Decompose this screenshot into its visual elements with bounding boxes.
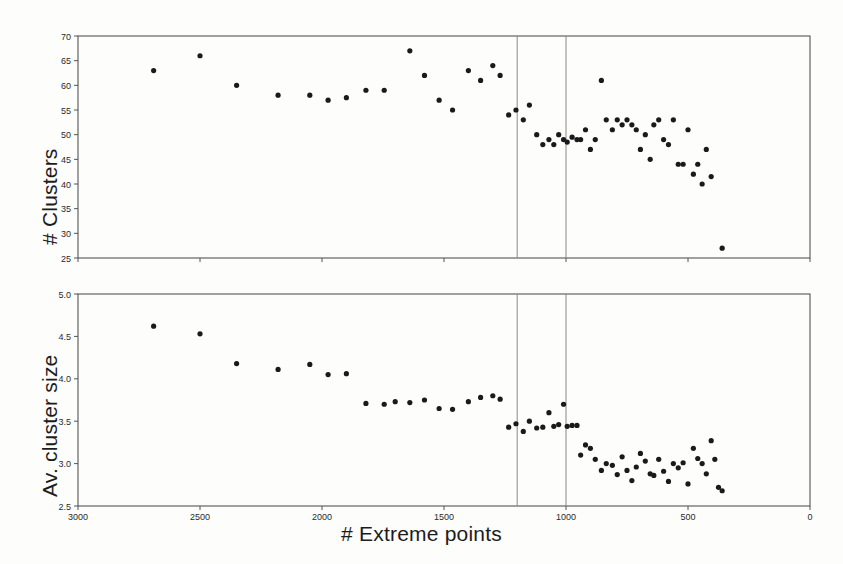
data-point <box>593 137 598 142</box>
data-point <box>574 423 579 428</box>
data-point <box>704 471 709 476</box>
data-point <box>661 469 666 474</box>
data-point <box>490 393 495 398</box>
data-point <box>615 472 620 477</box>
data-point <box>695 456 700 461</box>
data-point <box>534 132 539 137</box>
data-point <box>561 402 566 407</box>
data-point <box>197 331 202 336</box>
data-point <box>570 135 575 140</box>
y-axis-label-clusters: # Clusters <box>38 148 62 245</box>
data-point <box>275 367 280 372</box>
data-point <box>634 464 639 469</box>
data-point <box>629 122 634 127</box>
data-point <box>546 137 551 142</box>
data-point <box>326 372 331 377</box>
data-point <box>620 122 625 127</box>
x-tick-label: 0 <box>807 512 812 522</box>
data-point <box>712 457 717 462</box>
data-point <box>638 451 643 456</box>
x-tick-label: 1000 <box>556 512 576 522</box>
data-point <box>546 410 551 415</box>
data-point <box>578 137 583 142</box>
data-point <box>610 127 615 132</box>
data-point <box>700 461 705 466</box>
data-point <box>490 63 495 68</box>
data-point <box>393 399 398 404</box>
data-point <box>382 88 387 93</box>
data-point <box>534 425 539 430</box>
x-tick-label: 500 <box>680 512 695 522</box>
data-point <box>593 457 598 462</box>
data-point <box>527 419 532 424</box>
data-point <box>498 73 503 78</box>
data-point <box>643 132 648 137</box>
data-point <box>615 117 620 122</box>
data-point <box>521 117 526 122</box>
data-point <box>624 468 629 473</box>
data-point <box>604 117 609 122</box>
data-point <box>407 48 412 53</box>
data-point <box>583 127 588 132</box>
data-point <box>197 53 202 58</box>
data-point <box>437 98 442 103</box>
data-point <box>638 147 643 152</box>
data-point <box>651 122 656 127</box>
data-point <box>604 461 609 466</box>
data-point <box>681 460 686 465</box>
data-point <box>551 142 556 147</box>
data-point <box>666 142 671 147</box>
data-point <box>556 132 561 137</box>
data-point <box>599 78 604 83</box>
y-tick-label: 45 <box>61 155 71 165</box>
y-tick-label: 50 <box>61 130 71 140</box>
data-point <box>382 402 387 407</box>
data-point <box>629 478 634 483</box>
data-point <box>709 174 714 179</box>
data-point <box>620 454 625 459</box>
data-point <box>450 407 455 412</box>
data-point <box>422 397 427 402</box>
data-point <box>151 68 156 73</box>
y-tick-label: 30 <box>61 229 71 239</box>
panel-clusters: 25303540455055606570 <box>61 32 810 264</box>
y-tick-label: 5.0 <box>58 290 71 300</box>
data-point <box>307 93 312 98</box>
data-point <box>478 78 483 83</box>
data-point <box>634 127 639 132</box>
data-point <box>676 162 681 167</box>
data-point <box>651 473 656 478</box>
data-point <box>363 88 368 93</box>
data-point <box>685 481 690 486</box>
data-point <box>326 98 331 103</box>
y-tick-label: 65 <box>61 56 71 66</box>
data-point <box>407 400 412 405</box>
data-point <box>695 162 700 167</box>
data-point <box>666 479 671 484</box>
x-tick-label: 2000 <box>312 512 332 522</box>
y-tick-label: 35 <box>61 204 71 214</box>
data-point <box>709 438 714 443</box>
data-point <box>521 429 526 434</box>
data-point <box>624 117 629 122</box>
y-tick-label: 60 <box>61 81 71 91</box>
data-point <box>700 181 705 186</box>
data-point <box>450 107 455 112</box>
data-point <box>478 395 483 400</box>
data-point <box>643 458 648 463</box>
x-axis-label: # Extreme points <box>0 522 843 546</box>
data-point <box>583 442 588 447</box>
data-point <box>540 142 545 147</box>
data-point <box>671 461 676 466</box>
data-point <box>565 424 570 429</box>
data-point <box>565 139 570 144</box>
y-tick-label: 70 <box>61 32 71 42</box>
plot-frame <box>78 36 810 258</box>
data-point <box>588 147 593 152</box>
data-point <box>151 324 156 329</box>
y-tick-label: 40 <box>61 180 71 190</box>
data-point <box>513 107 518 112</box>
data-point <box>466 68 471 73</box>
data-point <box>551 424 556 429</box>
y-tick-label: 55 <box>61 106 71 116</box>
